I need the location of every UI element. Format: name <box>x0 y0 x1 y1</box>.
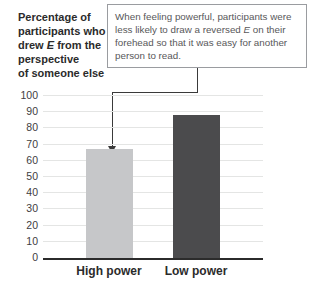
y-tick-label: 50 <box>0 170 38 182</box>
gridline <box>43 144 263 145</box>
y-tick-label: 100 <box>0 89 38 101</box>
category-label-high-power: High power <box>65 264 153 278</box>
bar-chart-figure: Percentage of participants who drew E fr… <box>0 0 313 281</box>
annotation-text-line: person to read. <box>115 49 304 62</box>
category-label-low-power: Low power <box>152 264 240 278</box>
y-tick-label: 40 <box>0 186 38 198</box>
gridline <box>43 225 263 226</box>
annotation-callout-box: When feeling powerful, participants were… <box>107 4 307 68</box>
gridline <box>43 127 263 128</box>
y-tick-label: 0 <box>0 251 38 263</box>
y-tick-label: 30 <box>0 202 38 214</box>
y-tick-label: 10 <box>0 235 38 247</box>
plot-area <box>43 96 263 260</box>
y-tick-label: 90 <box>0 105 38 117</box>
bar-low-power <box>173 115 220 258</box>
gridline <box>43 241 263 242</box>
gridline <box>43 176 263 177</box>
y-tick-label: 80 <box>0 121 38 133</box>
y-tick-label: 60 <box>0 154 38 166</box>
gridline <box>43 160 263 161</box>
callout-connector-segment <box>112 92 198 93</box>
annotation-text-line: When feeling powerful, participants were <box>115 10 304 23</box>
y-axis-labels: 0102030405060708090100 <box>0 0 38 281</box>
gridline <box>43 208 263 209</box>
annotation-text-line: less likely to draw a reversed E on thei… <box>115 23 304 36</box>
annotation-text-line: forehead so that it was easy for another <box>115 36 304 49</box>
y-tick-label: 70 <box>0 138 38 150</box>
gridline <box>43 192 263 193</box>
y-tick-label: 20 <box>0 219 38 231</box>
gridline <box>43 111 263 112</box>
gridline <box>43 95 263 96</box>
bar-high-power <box>86 149 133 258</box>
callout-connector-segment <box>197 68 198 93</box>
